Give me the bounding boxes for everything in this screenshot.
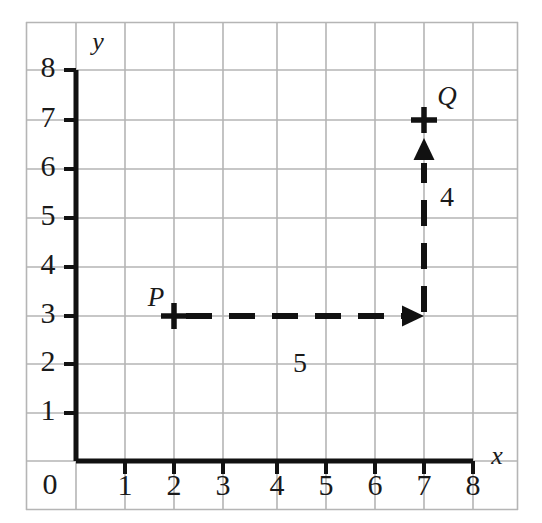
x-axis-label: x <box>490 441 503 470</box>
y-axis-label: y <box>89 27 104 56</box>
y-tick-label-8: 8 <box>41 50 56 83</box>
x-tick-label-6: 6 <box>368 468 383 501</box>
point-label-p: P <box>147 282 165 312</box>
canvas-background <box>0 0 542 523</box>
x-tick-label-1: 1 <box>118 468 133 501</box>
x-tick-label-4: 4 <box>270 468 285 501</box>
y-tick-label-2: 2 <box>41 344 56 377</box>
y-tick-label-1: 1 <box>41 393 56 426</box>
figure-container: 8 7 6 5 4 3 2 1 0 1 2 3 4 5 6 7 8 y x 5 <box>0 0 542 523</box>
x-tick-label-5: 5 <box>319 468 334 501</box>
y-tick-label-5: 5 <box>41 198 56 231</box>
x-tick-label-7: 7 <box>417 468 432 501</box>
x-tick-label-3: 3 <box>216 468 231 501</box>
vertical-rise-label: 4 <box>440 181 454 212</box>
point-label-q: Q <box>437 81 457 111</box>
y-tick-label-6: 6 <box>41 149 56 182</box>
horizontal-run-label: 5 <box>293 347 307 378</box>
y-tick-label-4: 4 <box>41 247 56 280</box>
x-tick-label-8: 8 <box>466 468 481 501</box>
coordinate-grid-diagram: 8 7 6 5 4 3 2 1 0 1 2 3 4 5 6 7 8 y x 5 <box>0 0 542 523</box>
x-tick-label-2: 2 <box>167 468 182 501</box>
y-tick-label-3: 3 <box>41 296 56 329</box>
origin-label: 0 <box>43 467 58 500</box>
y-tick-label-7: 7 <box>41 100 56 133</box>
